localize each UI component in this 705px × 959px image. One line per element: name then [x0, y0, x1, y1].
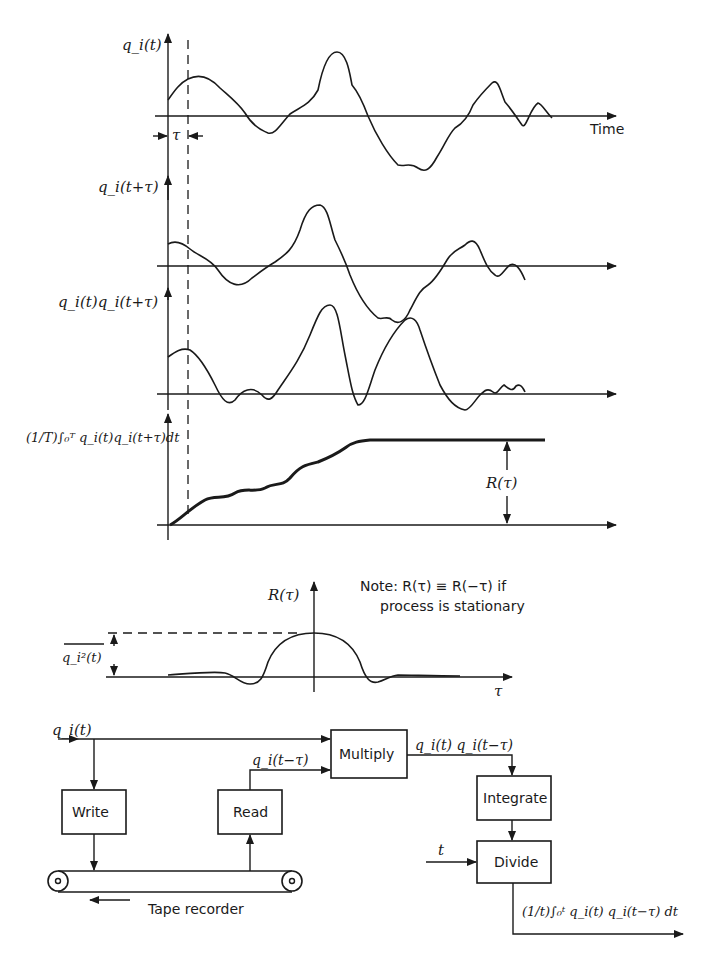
product-panel: q_i(t)q_i(t+τ)	[58, 288, 616, 410]
stationary-note-line-2: process is stationary	[380, 598, 525, 614]
signal-ylabel: q_i(t)	[122, 36, 162, 54]
shifted-signal-curve	[168, 205, 525, 322]
r-tau-ylabel: R(τ)	[267, 586, 299, 604]
read-label: Read	[233, 804, 268, 820]
product-ylabel: q_i(t)q_i(t+τ)	[58, 293, 158, 311]
signal-panel: q_i(t) Time τ	[122, 34, 624, 520]
autocorrelation-figure: q_i(t) Time τ q_i(t+τ) q_i(t)q_i(t+τ) (1…	[0, 0, 705, 959]
divide-label: Divide	[494, 854, 538, 870]
right-reel-icon	[282, 871, 302, 891]
multiply-label: Multiply	[339, 746, 394, 762]
shifted-signal-panel: q_i(t+τ)	[98, 176, 616, 322]
stationary-note-line-1: Note: R(τ) ≡ R(−τ) if	[360, 578, 507, 594]
time-input-label: t	[438, 841, 445, 859]
tau-marker-label: τ	[172, 126, 181, 144]
read-to-multiply-line	[250, 770, 330, 790]
input-signal-label: q_i(t)	[52, 721, 92, 739]
delayed-signal-label: q_i(t−τ)	[252, 752, 308, 769]
write-label: Write	[72, 804, 109, 820]
block-diagram: q_i(t) Write Read q_i(t−τ) Multiply q_i(…	[48, 721, 683, 934]
integrate-label: Integrate	[483, 790, 547, 806]
product-signal-label: q_i(t) q_i(t−τ)	[415, 737, 513, 754]
output-signal-label: (1/t)∫₀ᵗ q_i(t) q_i(t−τ) dt	[522, 904, 679, 919]
integral-panel: (1/T)∫₀ᵀ q_i(t)q_i(t+τ)dt R(τ)	[26, 414, 616, 540]
time-axis-label: Time	[589, 121, 624, 137]
tape-recorder-label: Tape recorder	[147, 901, 244, 917]
tape-recorder: Tape recorder	[48, 871, 302, 917]
tau-axis-label: τ	[494, 682, 503, 700]
integral-result-label: R(τ)	[485, 474, 517, 492]
signal-curve	[168, 52, 552, 170]
autocorrelation-plot: R(τ) τ q_i²(t) Note: R(τ) ≡ R(−τ) if pro…	[62, 578, 525, 700]
shifted-ylabel: q_i(t+τ)	[98, 178, 159, 196]
multiply-to-integrate-line	[407, 755, 512, 775]
integral-ylabel: (1/T)∫₀ᵀ q_i(t)q_i(t+τ)dt	[26, 430, 180, 445]
left-reel-icon	[48, 871, 68, 891]
mean-square-label: q_i²(t)	[62, 650, 102, 665]
